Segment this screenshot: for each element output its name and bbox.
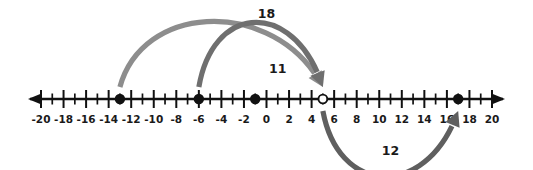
tick-label--16: -16 [77,113,96,125]
tick-label--10: -10 [144,113,163,125]
tick-label--18: -18 [54,113,73,125]
tick-label--12: -12 [122,113,141,125]
tick-label--20: -20 [32,113,51,125]
arc-11-label: 11 [269,61,286,76]
tick-label-2: 2 [285,113,292,125]
tick-group [41,90,492,108]
tick-label-18: 18 [462,113,477,125]
arc-12-label: 12 [382,143,399,158]
arc-18-label: 18 [258,6,275,21]
point-17 [453,94,463,104]
point-5 [318,95,327,104]
point-neg1 [250,94,260,104]
tick-label--4: -4 [216,113,228,125]
tick-label--6: -6 [193,113,205,125]
axis-left-arrow-icon [28,93,42,105]
tick-label-6: 6 [330,113,337,125]
arc-12-path [323,111,452,170]
point-neg13 [115,94,125,104]
tick-label-14: 14 [417,113,432,125]
tick-label-10: 10 [372,113,387,125]
axis-right-arrow-icon [491,93,505,105]
tick-label--2: -2 [238,113,250,125]
tick-label-0: 0 [263,113,270,125]
number-line-svg: -20-18-16-14-12-10-8-6-4-202468101214161… [0,0,533,170]
tick-label-4: 4 [308,113,315,125]
tick-label-group: -20-18-16-14-12-10-8-6-4-202468101214161… [32,113,500,125]
tick-label-12: 12 [394,113,409,125]
point-neg6 [194,94,204,104]
tick-label-20: 20 [485,113,500,125]
tick-label--8: -8 [170,113,182,125]
tick-label-8: 8 [353,113,360,125]
number-line-figure: -20-18-16-14-12-10-8-6-4-202468101214161… [0,0,533,170]
tick-label--14: -14 [99,113,118,125]
